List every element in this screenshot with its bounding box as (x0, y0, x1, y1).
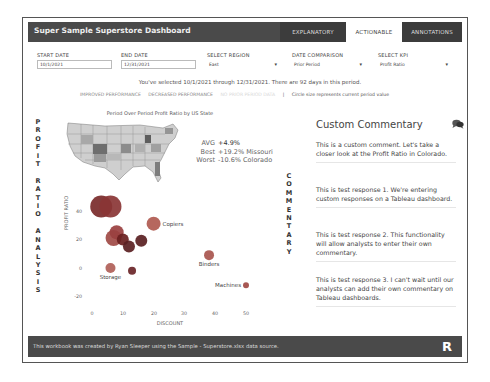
map-summary-stats: AVG+4.9% Best+19.2% Missouri Worst-10.6%… (193, 139, 273, 165)
svg-text:30: 30 (181, 311, 187, 316)
y-axis-ticks: 40 20 0 -20 (74, 209, 82, 299)
x-axis-ticks: 0 10 20 30 40 50 (90, 311, 249, 316)
legend-size-note: Circle size represents current period va… (292, 92, 389, 97)
comment-item: This is test response 1. We're entering … (316, 185, 456, 208)
comment-item: This is test response 2. This functional… (316, 230, 456, 262)
tab-explanatory[interactable]: EXPLANATORY (280, 22, 346, 42)
state-colorado[interactable] (93, 144, 107, 154)
end-date-filter: END DATE 12/31/2021 (121, 52, 196, 69)
best-label: Best (193, 148, 215, 157)
region-label: SELECT REGION (207, 52, 279, 58)
best-value: +19.2% Missouri (218, 148, 273, 156)
start-date-label: START DATE (37, 52, 112, 58)
worst-label: Worst (193, 156, 215, 165)
chevron-down-icon: ▾ (359, 60, 362, 69)
date-comparison-filter: DATE COMPARISON Prior Period ▾ (292, 52, 364, 69)
svg-text:10: 10 (120, 311, 126, 316)
tab-annotations[interactable]: ANNOTATIONS (402, 22, 462, 42)
scatter-bubble[interactable] (204, 250, 214, 260)
scatter-bubble[interactable] (135, 235, 147, 247)
scatter-bubble[interactable] (99, 196, 121, 218)
svg-text:-20: -20 (74, 294, 82, 299)
date-comparison-label: DATE COMPARISON (292, 52, 364, 58)
kpi-select[interactable]: Profit Ratio ▾ (378, 60, 450, 69)
dashboard-footer: This workbook was created by Ryan Sleepe… (28, 336, 462, 357)
svg-text:50: 50 (243, 311, 249, 316)
commentary-title: Custom Commentary (316, 119, 423, 130)
svg-text:20: 20 (76, 237, 82, 242)
svg-text:40: 40 (76, 209, 82, 214)
comment-item: This is test response 3. I can't wait un… (316, 275, 456, 307)
state-missouri[interactable] (121, 144, 131, 153)
region-select[interactable]: East ▾ (207, 60, 279, 69)
bubble-label: Storage (100, 274, 122, 281)
chevron-down-icon: ▾ (274, 60, 277, 69)
scatter-bubble[interactable] (243, 282, 249, 288)
map-title: Period Over Period Profit Ratio by US St… (60, 110, 260, 116)
bubble-series[interactable]: CopiersStorageBindersMachines (90, 196, 249, 289)
region-filter: SELECT REGION East ▾ (207, 52, 279, 69)
date-comparison-select[interactable]: Prior Period ▾ (292, 60, 364, 69)
scatter-bubble[interactable] (128, 267, 136, 275)
legend-decreased[interactable]: DECREASED PERFORMANCE (148, 92, 213, 97)
bubble-label: Machines (215, 282, 241, 288)
color-legend: IMPROVED PERFORMANCE DECREASED PERFORMAN… (80, 92, 395, 97)
svg-text:0: 0 (79, 266, 82, 271)
end-date-input[interactable]: 12/31/2021 (121, 60, 196, 69)
profit-ratio-analysis-vertical-label: PROFIT RATIO ANALYSIS (34, 118, 42, 295)
footer-credit-text: This workbook was created by Ryan Sleepe… (33, 343, 279, 349)
legend-separator: | (283, 92, 285, 97)
dashboard-title: Super Sample Superstore Dashboard (34, 26, 191, 35)
y-axis-title: PROFIT RATIO (63, 196, 69, 230)
dashboard-header: Super Sample Superstore Dashboard EXPLAN… (28, 22, 462, 42)
tab-actionable[interactable]: ACTIONABLE (346, 22, 402, 42)
start-date-filter: START DATE 10/1/2021 (37, 52, 112, 69)
x-axis-title: DISCOUNT (157, 320, 184, 326)
comment-item: This is a custom comment. Let's take a c… (316, 140, 456, 163)
svg-text:0: 0 (90, 311, 93, 316)
commentary-vertical-label: COMMENTARY (285, 172, 293, 256)
bubble-label: Copiers (163, 221, 184, 228)
legend-improved[interactable]: IMPROVED PERFORMANCE (80, 92, 141, 97)
kpi-filter: SELECT KPI Profit Ratio ▾ (378, 52, 450, 69)
chat-bubbles-icon[interactable] (452, 119, 464, 129)
chevron-down-icon: ▾ (445, 60, 448, 69)
scatter-bubble[interactable] (147, 217, 161, 231)
start-date-input[interactable]: 10/1/2021 (37, 60, 112, 69)
author-logo-icon[interactable]: R (442, 339, 452, 354)
period-summary-text: You've selected 10/1/2021 through 12/31/… (60, 79, 440, 85)
worst-value: -10.6% Colorado (218, 156, 272, 164)
profit-ratio-scatter-chart[interactable]: PROFIT RATIO 40 20 0 -20 0 10 20 30 40 5… (60, 185, 260, 330)
scatter-bubble[interactable] (105, 263, 115, 273)
date-comparison-value: Prior Period (294, 62, 320, 67)
svg-text:40: 40 (212, 311, 218, 316)
end-date-label: END DATE (121, 52, 196, 58)
svg-text:20: 20 (151, 311, 157, 316)
bubble-label: Binders (199, 261, 220, 267)
us-state-map[interactable] (65, 118, 185, 188)
scatter-bubble[interactable] (123, 241, 135, 253)
kpi-label: SELECT KPI (378, 52, 450, 58)
kpi-value: Profit Ratio (380, 62, 405, 67)
region-value: East (209, 62, 219, 67)
avg-value: +4.9% (218, 139, 240, 147)
avg-label: AVG (193, 139, 215, 148)
legend-no-data[interactable]: NO PRIOR PERIOD DATA (220, 92, 275, 97)
